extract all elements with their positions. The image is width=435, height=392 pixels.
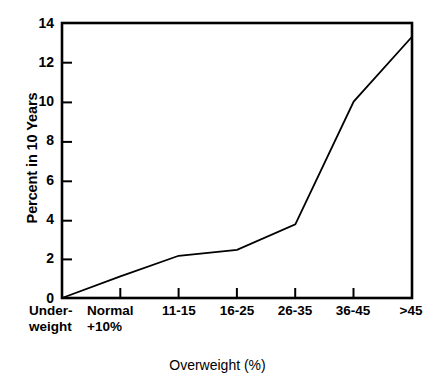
- x-tick-marks: [120, 288, 353, 298]
- y-tick-marks: [62, 63, 72, 260]
- plot-frame: [62, 23, 412, 298]
- x-tick-label-over-45: >45: [369, 303, 435, 319]
- data-line-series-percent-in-10-years: [62, 37, 412, 298]
- x-axis-title: Overweight (%): [0, 357, 435, 373]
- chart-figure: Percent in 10 Years 14 12 10 8 6 4 2 0: [0, 0, 435, 392]
